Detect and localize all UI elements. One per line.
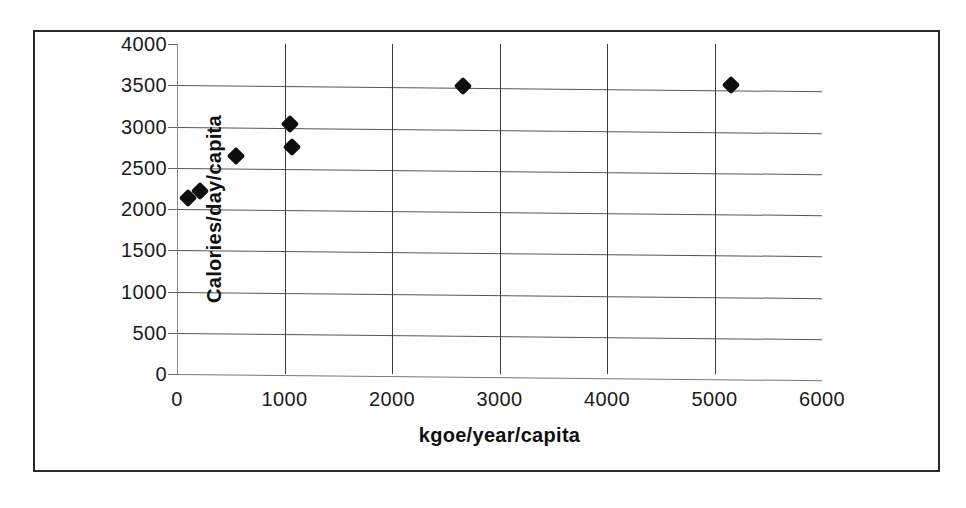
y-tick-mark (168, 333, 177, 334)
y-tick-mark (168, 209, 177, 210)
gridline-horizontal (177, 374, 822, 381)
gridline-vertical (715, 44, 716, 374)
y-tick-label: 1500 (121, 239, 167, 262)
scanned-page: 0500100015002000250030003500400001000200… (0, 0, 966, 508)
data-point (454, 77, 472, 95)
y-axis-line (177, 44, 178, 374)
gridline-vertical (500, 44, 501, 374)
x-tick-label: 2000 (369, 388, 415, 411)
y-tick-mark (168, 292, 177, 293)
y-tick-label: 3000 (121, 115, 167, 138)
scatter-chart: 0500100015002000250030003500400001000200… (35, 32, 942, 474)
data-point (281, 115, 299, 133)
x-tick-label: 4000 (584, 388, 630, 411)
gridline-vertical (392, 44, 393, 374)
y-tick-label: 2500 (121, 156, 167, 179)
y-tick-label: 2000 (121, 198, 167, 221)
y-tick-mark (168, 127, 177, 128)
x-tick-label: 5000 (691, 388, 737, 411)
x-tick-label: 0 (171, 388, 183, 411)
x-tick-label: 6000 (799, 388, 845, 411)
data-point (227, 147, 245, 165)
plot-area: 0500100015002000250030003500400001000200… (177, 44, 822, 374)
y-axis-title: Calories/day/capita (203, 94, 226, 324)
data-point (721, 76, 739, 94)
gridline-vertical (607, 44, 608, 374)
y-tick-label: 500 (132, 321, 167, 344)
y-tick-mark (168, 85, 177, 86)
y-tick-label: 3500 (121, 74, 167, 97)
y-tick-mark (168, 250, 177, 251)
y-tick-label: 0 (155, 363, 167, 386)
figure-frame: 0500100015002000250030003500400001000200… (33, 30, 940, 472)
data-point (283, 138, 301, 156)
x-tick-label: 1000 (261, 388, 307, 411)
y-tick-mark (168, 44, 177, 45)
gridline-vertical (285, 44, 286, 374)
x-tick-label: 3000 (476, 388, 522, 411)
y-tick-label: 4000 (121, 33, 167, 56)
x-axis-title: kgoe/year/capita (177, 424, 822, 447)
y-tick-label: 1000 (121, 280, 167, 303)
y-tick-mark (168, 374, 177, 375)
y-tick-mark (168, 168, 177, 169)
